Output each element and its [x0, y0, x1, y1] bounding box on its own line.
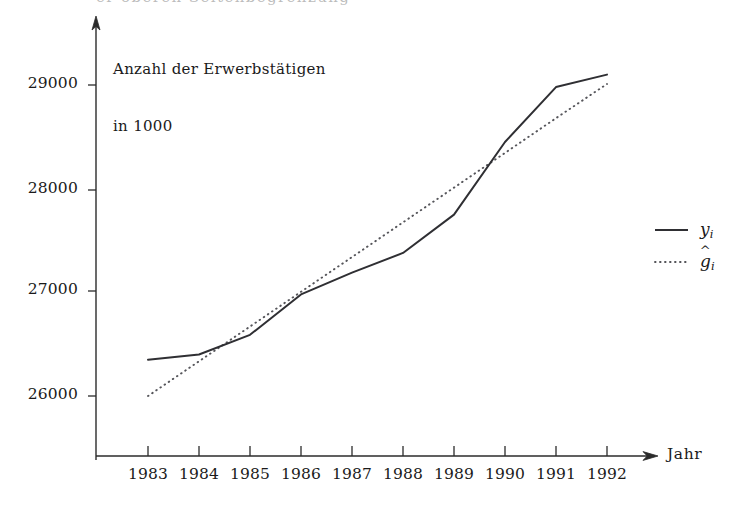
- x-axis-label: Jahr: [667, 445, 702, 463]
- y-tick-label-27000: 27000: [12, 280, 78, 298]
- chart-canvas: [0, 0, 732, 521]
- chart-figure: er oberen Seitenbegrenzung: [0, 0, 732, 521]
- y-tick-marks: [88, 85, 96, 396]
- legend-marker-group: [655, 230, 688, 262]
- y-tick-label-28000: 28000: [12, 179, 78, 197]
- legend-label-observed: yi: [700, 219, 713, 241]
- x-tick-label-1992: 1992: [575, 465, 639, 483]
- y-axis-title-line2: in 1000: [113, 117, 326, 136]
- legend-label-observed-base: y: [700, 219, 710, 239]
- legend-label-fitted-sub: i: [711, 259, 715, 273]
- legend-label-fitted-hatwrap: ^g: [700, 251, 711, 271]
- y-tick-label-26000: 26000: [12, 385, 78, 403]
- circumflex-accent-icon: ^: [700, 243, 711, 258]
- y-axis-title-line1: Anzahl der Erwerbstätigen: [113, 60, 326, 79]
- legend-label-observed-sub: i: [710, 227, 714, 241]
- y-axis-title: Anzahl der Erwerbstätigen in 1000: [113, 22, 326, 174]
- x-tick-marks: [148, 446, 607, 456]
- y-tick-label-29000: 29000: [12, 74, 78, 92]
- legend-label-fitted: ^gi: [700, 251, 715, 273]
